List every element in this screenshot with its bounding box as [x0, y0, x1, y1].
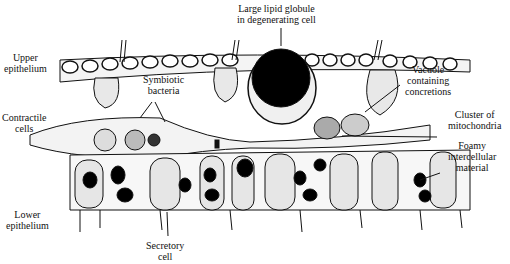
label-contractile-cells: Contractile cells	[2, 112, 46, 134]
label-line: concretions	[405, 86, 451, 97]
label-line: mitochondria	[448, 120, 501, 131]
label-line: Symbiotic	[143, 74, 184, 85]
label-line: Secretory	[146, 240, 184, 251]
label-line: Lower	[6, 209, 49, 220]
label-foamy-material: Foamy intercellular material	[448, 140, 496, 173]
label-line: Contractile	[2, 112, 46, 123]
lipid-globule	[248, 28, 316, 124]
label-line: containing	[405, 75, 451, 86]
label-line: material	[448, 162, 496, 173]
label-line: epithelium	[4, 63, 47, 74]
label-line: Foamy	[448, 140, 496, 151]
label-mitochondria: Cluster of mitochondria	[448, 109, 501, 131]
label-line: Vacuole	[405, 64, 451, 75]
label-secretory-cell: Secretory cell	[146, 240, 184, 262]
label-line: cell	[146, 251, 184, 262]
label-upper-epithelium: Upper epithelium	[4, 52, 47, 74]
label-line: bacteria	[143, 85, 184, 96]
label-line: epithelium	[6, 220, 49, 231]
tissue-illustration	[0, 0, 510, 264]
label-lower-epithelium: Lower epithelium	[6, 209, 49, 231]
label-line: in degenerating cell	[237, 14, 316, 25]
label-lipid-globule: Large lipid globule in degenerating cell	[237, 3, 316, 25]
label-line: cells	[2, 123, 46, 134]
label-line: Upper	[4, 52, 47, 63]
label-line: Cluster of	[448, 109, 501, 120]
label-vacuole: Vacuole containing concretions	[405, 64, 451, 97]
label-line: intercellular	[448, 151, 496, 162]
label-symbiotic-bacteria: Symbiotic bacteria	[143, 74, 184, 96]
label-line: Large lipid globule	[237, 3, 316, 14]
lower-epithelium-layer	[70, 150, 470, 232]
